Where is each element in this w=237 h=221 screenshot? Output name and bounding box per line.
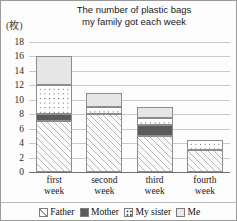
bar-3 (137, 42, 173, 172)
x-axis-label-4: fourth week (175, 175, 235, 196)
legend-item-father[interactable]: Father (39, 207, 75, 217)
bar-2 (86, 42, 122, 172)
y-axis-tick-label: 8 (4, 109, 24, 119)
legend-item-me[interactable]: Me (176, 207, 200, 217)
bar-4 (187, 42, 223, 172)
chart-legend: FatherMotherMy sisterMe (1, 202, 237, 221)
legend-label: Father (50, 207, 74, 217)
y-axis-tick-label: 14 (4, 66, 24, 76)
legend-label: Me (188, 207, 201, 217)
chart-title: The number of plastic bags my family got… (35, 4, 233, 27)
bar-segment-sister (187, 140, 223, 151)
y-axis-tick-label: 2 (4, 153, 24, 163)
legend-swatch-father-icon (39, 208, 48, 217)
y-axis-tick-label: 16 (4, 51, 24, 61)
y-axis-tick-label: 4 (4, 138, 24, 148)
y-axis-tick-label: 18 (4, 37, 24, 47)
bar-segment-sister (36, 85, 72, 114)
bar-segment-me (36, 56, 72, 85)
y-axis-tick-label: 12 (4, 80, 24, 90)
legend-item-sister[interactable]: My sister (124, 207, 171, 217)
bar-segment-me (86, 93, 122, 107)
legend-label: My sister (135, 207, 171, 217)
bar-segment-father (137, 136, 173, 172)
bar-segment-mother (137, 125, 173, 136)
gridline (29, 172, 230, 173)
bar-segment-father (86, 114, 122, 172)
bar-segment-father (36, 121, 72, 172)
bar-segment-sister (137, 118, 173, 125)
legend-swatch-mother-icon (80, 208, 89, 217)
bar-segment-father (187, 150, 223, 172)
legend-swatch-sister-icon (124, 208, 133, 217)
y-axis-tick-label: 10 (4, 95, 24, 105)
y-axis-tick-label: 0 (4, 167, 24, 177)
legend-swatch-me-icon (176, 208, 185, 217)
legend-item-mother[interactable]: Mother (80, 207, 119, 217)
bar-1 (36, 42, 72, 172)
legend-label: Mother (91, 207, 119, 217)
chart-frame: The number of plastic bags my family got… (0, 0, 237, 221)
bar-segment-sister (86, 107, 122, 114)
y-axis-tick-label: 6 (4, 124, 24, 134)
bar-segment-mother (36, 114, 72, 121)
y-axis-unit-label: (枚) (6, 17, 23, 32)
bar-segment-me (137, 107, 173, 118)
